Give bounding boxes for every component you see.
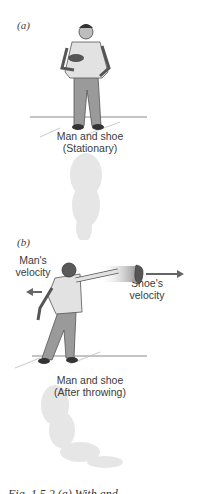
man-velocity-arrow — [26, 288, 42, 296]
shadow-a — [70, 153, 102, 240]
stationary-man-illustration — [0, 0, 197, 240]
panel-b-caption-line2: (After throwing) — [40, 386, 140, 398]
panel-a-caption-line1: Man and shoe — [40, 130, 140, 142]
flying-shoe-icon — [135, 265, 143, 284]
panel-a-caption: Man and shoe (Stationary) — [40, 130, 140, 154]
panel-b-caption-line1: Man and shoe — [40, 374, 140, 386]
panel-a-caption-line2: (Stationary) — [40, 142, 140, 154]
panel-b-caption: Man and shoe (After throwing) — [40, 374, 140, 398]
throwing-man-illustration — [0, 240, 197, 485]
shoe-velocity-arrow — [146, 270, 184, 278]
figure-caption: Fig. 1.5.2 (a) With and ... — [8, 487, 130, 494]
